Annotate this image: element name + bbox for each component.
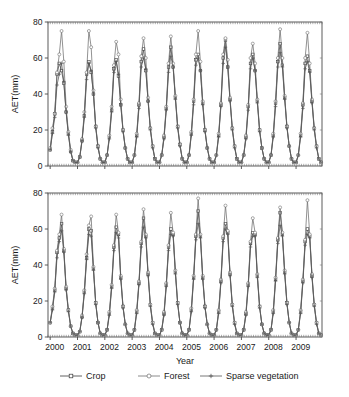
legend-item-crop[interactable]: Crop — [60, 371, 106, 381]
data-point-marker — [117, 53, 120, 56]
data-point-marker — [117, 236, 121, 240]
data-point-marker — [303, 243, 307, 247]
data-point-marker — [224, 204, 227, 207]
x-tick-label: 2009 — [291, 342, 310, 352]
data-point-marker — [137, 107, 141, 111]
data-point-marker — [279, 28, 282, 31]
y-axis-title: AET(mm) — [10, 75, 20, 114]
series-sparse-vegetation — [48, 222, 323, 337]
y-tick-label: 40 — [33, 89, 43, 99]
x-tick-label: 2008 — [264, 342, 283, 352]
data-point-marker — [85, 78, 89, 82]
data-point-marker — [304, 57, 307, 60]
y-tick-label: 40 — [33, 260, 43, 270]
data-point-marker — [169, 35, 172, 38]
y-tick-label: 80 — [33, 188, 43, 198]
x-tick-label: 2005 — [182, 342, 201, 352]
y-tick-label: 60 — [33, 53, 43, 63]
aet-timeseries-figure: 020406080AET(mm)020406080AET(mm)20002001… — [0, 0, 349, 397]
legend-item-sparse-vegetation[interactable]: Sparse vegetation — [200, 371, 299, 381]
data-point-marker — [249, 245, 253, 249]
data-point-marker — [62, 60, 65, 63]
data-point-marker — [90, 215, 93, 218]
legend-marker — [69, 374, 73, 378]
series-forest — [49, 197, 323, 337]
legend: CropForestSparse vegetation — [60, 371, 299, 381]
data-point-marker — [115, 213, 118, 216]
series-sparse-vegetation — [48, 45, 323, 164]
data-point-marker — [194, 53, 197, 56]
series-line — [50, 224, 321, 336]
y-tick-label: 20 — [33, 296, 43, 306]
y-tick-label: 60 — [33, 224, 43, 234]
data-point-marker — [306, 31, 309, 34]
legend-label: Crop — [86, 371, 106, 381]
data-point-marker — [306, 228, 309, 231]
y-tick-label: 0 — [38, 332, 43, 342]
data-point-marker — [251, 42, 254, 45]
data-point-marker — [199, 60, 202, 63]
data-point-marker — [301, 107, 305, 111]
x-axis-labels: 2000200120022003200420052006200720082009 — [45, 342, 310, 352]
x-tick-label: 2003 — [127, 342, 146, 352]
data-point-marker — [58, 53, 61, 56]
chart-canvas: 020406080AET(mm)020406080AET(mm)20002001… — [0, 0, 349, 397]
data-point-marker — [221, 62, 225, 66]
data-point-marker — [139, 65, 143, 69]
y-tick-label: 80 — [33, 17, 43, 27]
data-point-marker — [140, 55, 143, 58]
series-crop — [49, 210, 323, 337]
data-point-marker — [112, 71, 116, 75]
panel-top: 020406080AET(mm) — [10, 17, 323, 171]
x-tick-label: 2001 — [73, 342, 92, 352]
x-tick-label: 2007 — [237, 342, 256, 352]
data-point-marker — [306, 199, 309, 202]
data-point-marker — [221, 240, 225, 244]
x-tick-label: 2002 — [100, 342, 119, 352]
series-forest — [49, 28, 323, 164]
data-point-marker — [139, 245, 143, 249]
data-point-marker — [115, 40, 118, 43]
data-point-marker — [142, 37, 145, 40]
data-point-marker — [194, 238, 198, 242]
data-point-marker — [254, 231, 257, 234]
data-point-marker — [276, 242, 280, 246]
data-point-marker — [276, 65, 280, 69]
data-point-marker — [56, 71, 59, 74]
legend-label: Forest — [164, 371, 190, 381]
x-tick-label: 2006 — [209, 342, 228, 352]
data-point-marker — [172, 231, 175, 234]
data-point-marker — [251, 217, 254, 220]
series-line — [50, 40, 321, 162]
x-tick-label: 2004 — [155, 342, 174, 352]
data-point-marker — [169, 211, 172, 214]
legend-marker — [147, 374, 151, 378]
legend-marker — [209, 374, 213, 378]
y-axis-title: AET(mm) — [10, 246, 20, 285]
data-point-marker — [55, 256, 59, 260]
data-point-marker — [87, 224, 90, 227]
data-point-marker — [194, 63, 198, 67]
data-point-marker — [249, 67, 253, 71]
legend-item-forest[interactable]: Forest — [138, 371, 190, 381]
data-point-marker — [274, 105, 278, 109]
data-point-marker — [142, 208, 145, 211]
data-point-marker — [197, 197, 200, 200]
data-point-marker — [246, 108, 250, 112]
data-point-marker — [167, 71, 171, 75]
data-point-marker — [53, 116, 57, 120]
x-tick-label: 2000 — [45, 342, 64, 352]
data-point-marker — [55, 83, 59, 87]
data-point-marker — [167, 249, 171, 253]
y-tick-label: 0 — [38, 161, 43, 171]
panel-bottom: 020406080AET(mm) — [10, 188, 323, 342]
y-tick-label: 20 — [33, 125, 43, 135]
data-point-marker — [60, 213, 63, 216]
x-axis-title: Year — [176, 356, 194, 366]
data-point-marker — [308, 62, 311, 65]
legend-label: Sparse vegetation — [226, 371, 299, 381]
data-point-marker — [197, 30, 200, 33]
data-point-marker — [303, 67, 307, 71]
data-point-marker — [60, 30, 63, 33]
data-point-marker — [192, 103, 196, 107]
